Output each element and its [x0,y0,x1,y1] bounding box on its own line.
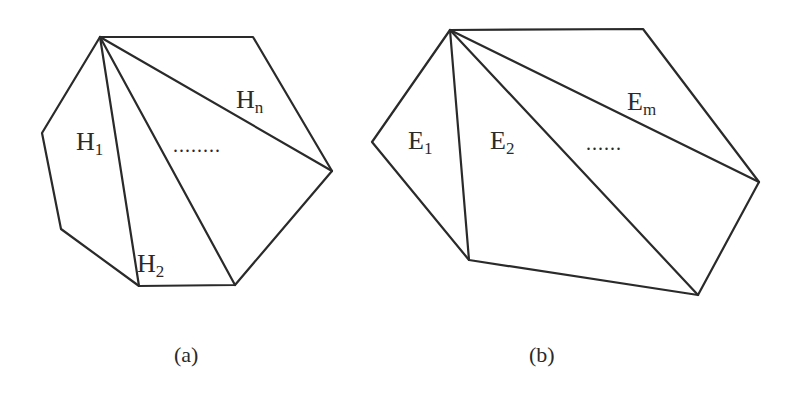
triangulation-diagram: H1 H2 Hn ........ (a) E1 E2 Em ...... (b… [0,0,797,394]
caption-b: (b) [529,342,555,367]
label-hn: Hn [236,85,264,117]
label-e2: E2 [490,126,514,158]
diagonal-b-2 [450,30,698,295]
ellipsis-b: ...... [586,132,622,154]
label-h1: H1 [76,127,103,159]
label-e1: E1 [408,126,432,158]
label-em: Em [627,87,656,119]
polygon-a-outline [42,37,332,286]
polygon-b-outline [372,29,759,295]
caption-a: (a) [174,342,198,367]
figure-b: E1 E2 Em ...... (b) [372,29,759,367]
ellipsis-a: ........ [173,134,221,156]
label-h2: H2 [137,249,164,281]
diagonal-b-3 [450,30,759,182]
figure-a: H1 H2 Hn ........ (a) [42,37,332,367]
diagonal-b-1 [450,30,469,260]
